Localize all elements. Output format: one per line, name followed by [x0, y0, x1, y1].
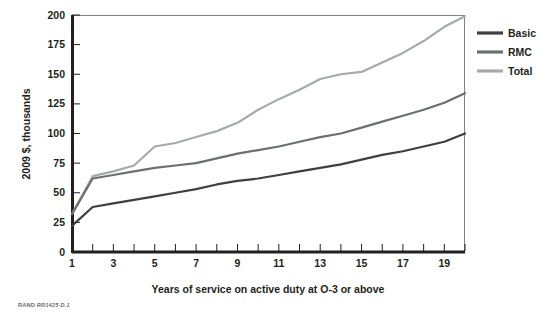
x-tick-label: 17	[397, 257, 409, 269]
legend-label-basic: Basic	[508, 27, 536, 39]
x-tick-label: 9	[235, 257, 241, 269]
x-tick-label: 11	[273, 257, 284, 269]
x-tick-label: 7	[193, 257, 199, 269]
x-tick-label: 19	[438, 257, 450, 269]
y-tick-label: 150	[47, 68, 65, 80]
y-tick-label: 0	[59, 246, 65, 258]
y-axis-tick-labels: 0255075100125150175200	[47, 9, 65, 258]
credit-prefix: RAND	[18, 302, 35, 308]
line-chart: 0255075100125150175200 135791113151719 2…	[0, 0, 559, 323]
x-tick-label: 3	[110, 257, 116, 269]
y-tick-label: 100	[47, 127, 65, 139]
legend-label-rmc: RMC	[508, 46, 532, 58]
y-tick-label: 50	[53, 186, 65, 198]
legend-label-total: Total	[508, 65, 532, 77]
x-tick-label: 5	[152, 257, 158, 269]
y-tick-label: 175	[47, 38, 65, 50]
y-axis-title: 2009 $, thousands	[20, 88, 32, 179]
x-tick-label: 13	[314, 257, 326, 269]
chart-figure: 0255075100125150175200 135791113151719 2…	[0, 0, 559, 323]
x-axis-title: Years of service on active duty at O-3 o…	[152, 283, 385, 295]
figure-credit: RAND RR1425-D.1	[18, 302, 70, 308]
y-tick-label: 125	[47, 97, 65, 109]
y-tick-label: 75	[53, 157, 65, 169]
x-tick-label: 15	[356, 257, 368, 269]
x-tick-label: 1	[69, 257, 75, 269]
y-tick-label: 25	[53, 216, 65, 228]
y-tick-label: 200	[47, 9, 65, 21]
chart-legend: BasicRMCTotal	[477, 27, 536, 77]
x-axis-tick-labels: 135791113151719	[69, 257, 450, 269]
credit-id: RR1425-D.1	[37, 302, 70, 308]
